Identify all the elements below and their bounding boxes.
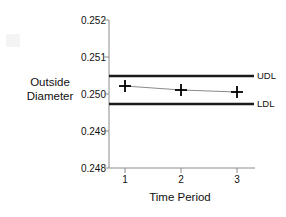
y-axis-ticks: [104, 20, 109, 168]
control-chart: Outside Diameter Time Period 0.252 0.251…: [0, 0, 286, 217]
data-point-marker-3: [231, 86, 243, 98]
data-point-marker-1: [119, 80, 131, 92]
plot-area: [0, 0, 286, 217]
data-point-marker-2: [175, 84, 187, 96]
x-axis-ticks: [125, 168, 237, 173]
